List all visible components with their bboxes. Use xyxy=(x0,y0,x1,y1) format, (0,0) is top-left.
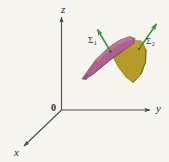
sigma-2-subscript: 2 xyxy=(151,41,155,47)
normal-vector-sigma-1 xyxy=(98,30,111,52)
normal-foot-sigma-2-dot xyxy=(138,48,140,50)
coordinate-diagram-svg xyxy=(0,0,169,162)
surface-label-sigma-2: Σ2 xyxy=(146,37,155,47)
axis-label-x: x xyxy=(14,147,19,158)
x-axis xyxy=(24,110,62,146)
normal-foot-sigma-1-dot xyxy=(109,50,111,52)
figure-canvas: z y x 0 Σ1 Σ2 xyxy=(0,0,169,162)
surface-label-sigma-1: Σ1 xyxy=(88,36,97,46)
axis-label-z: z xyxy=(61,4,65,15)
axes-group xyxy=(24,17,150,146)
origin-label: 0 xyxy=(51,103,56,113)
sigma-1-subscript: 1 xyxy=(93,40,97,46)
axis-label-y: y xyxy=(156,103,161,114)
